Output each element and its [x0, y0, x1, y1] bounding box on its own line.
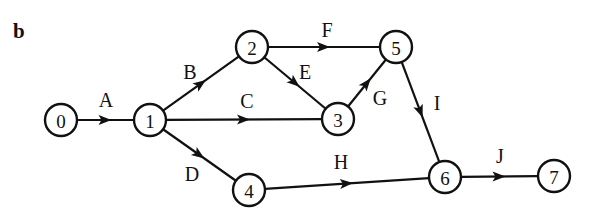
edge-e: E: [264, 57, 325, 108]
edge-a: A: [77, 89, 134, 125]
arrowhead-icon: [191, 147, 205, 159]
edge-label: I: [434, 92, 441, 114]
node-5: 5: [380, 31, 412, 63]
node-label: 3: [333, 110, 343, 131]
edge-g: G: [348, 59, 387, 109]
edge-i: I: [402, 62, 441, 162]
edge-d: D: [163, 129, 236, 185]
node-0: 0: [45, 104, 77, 136]
edge-label: H: [334, 151, 348, 173]
edge-label: E: [299, 61, 311, 83]
node-3: 3: [322, 103, 354, 135]
node-label: 7: [549, 167, 559, 188]
edge-label: A: [99, 89, 114, 111]
panel-label: b: [13, 19, 25, 43]
edge-label: F: [321, 19, 332, 41]
edge-f: F: [268, 19, 380, 52]
node-label: 4: [244, 181, 254, 202]
edge-h: H: [265, 151, 429, 189]
node-label: 2: [247, 38, 257, 59]
node-label: 5: [391, 38, 401, 59]
edge-label: C: [240, 90, 253, 112]
node-label: 1: [145, 111, 155, 132]
edge-b: B: [163, 56, 239, 110]
edge-label: D: [185, 163, 199, 185]
node-4: 4: [233, 174, 265, 206]
activity-network-diagram: b ABCDEFGHIJ 01234567: [0, 0, 592, 224]
node-1: 1: [134, 104, 166, 136]
node-label: 0: [56, 111, 66, 132]
node-6: 6: [429, 161, 461, 193]
edge-label: B: [183, 61, 196, 83]
edge-j: J: [461, 145, 538, 182]
edge-label: J: [496, 145, 504, 167]
edge-label: G: [373, 87, 387, 109]
node-7: 7: [538, 160, 570, 192]
node-label: 6: [440, 168, 450, 189]
edge-c: C: [166, 90, 322, 125]
node-2: 2: [236, 31, 268, 63]
